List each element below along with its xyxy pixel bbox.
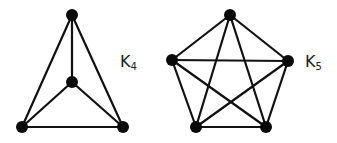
k5-edge — [172, 60, 288, 61]
k5-edge — [196, 15, 230, 127]
k5-edge — [230, 15, 266, 127]
k4-edge — [72, 82, 123, 127]
k5-vertex — [166, 54, 178, 66]
k4-edges — [22, 15, 123, 127]
k4-edge — [72, 15, 123, 127]
k5-label-main: K — [305, 52, 316, 71]
k4-edge — [22, 82, 72, 127]
k5-vertex — [190, 121, 202, 133]
k5-vertex — [260, 121, 272, 133]
k5-edges — [172, 15, 288, 127]
k5-graph: K5 — [166, 9, 322, 133]
k4-vertex — [16, 121, 28, 133]
k5-vertex — [224, 9, 236, 21]
k4-label: K4 — [120, 52, 137, 72]
k5-edge — [172, 60, 266, 127]
k5-label-subscript: 5 — [316, 61, 322, 72]
complete-graphs-diagram: K4 K5 — [0, 0, 337, 143]
k5-edge — [172, 15, 230, 60]
k4-label-main: K — [120, 52, 131, 71]
k4-graph: K4 — [16, 9, 137, 133]
k4-label-subscript: 4 — [131, 61, 137, 72]
k4-vertex — [117, 121, 129, 133]
k4-edge — [22, 15, 72, 127]
k4-vertex — [66, 9, 78, 21]
k5-label: K5 — [305, 52, 322, 72]
k4-vertex — [66, 76, 78, 88]
k5-edge — [266, 61, 288, 127]
k5-edge — [230, 15, 288, 61]
k5-edge — [172, 60, 196, 127]
k5-vertex — [282, 55, 294, 67]
k5-edge — [196, 61, 288, 127]
